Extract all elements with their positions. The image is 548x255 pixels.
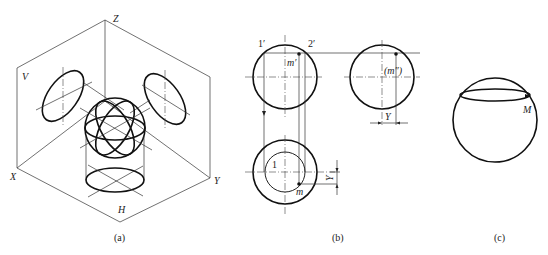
figure-b-caption: (b) <box>332 232 344 244</box>
top-view <box>245 135 340 215</box>
front-top-projectors <box>262 53 305 184</box>
figure-a-caption: (a) <box>114 232 125 244</box>
label-m: m <box>296 186 303 197</box>
z-axis-label: Z <box>113 13 119 24</box>
label-y-top: Y <box>324 174 335 181</box>
v-plane-projection <box>34 64 124 129</box>
h-plane-projection <box>86 165 144 197</box>
label-m-prime: m′ <box>287 57 297 68</box>
figure-c-caption: (c) <box>494 232 505 244</box>
label-M: M <box>522 104 532 115</box>
label-1-prime: 1′ <box>258 38 265 49</box>
label-m-double-prime: (m″) <box>384 65 403 77</box>
label-y-side: Y <box>385 111 392 122</box>
x-axis-label: X <box>9 171 17 182</box>
y-axis-label: Y <box>214 175 221 186</box>
h-plane-label: H <box>117 204 126 215</box>
figure-b-orthographic-views: 1′ 2′ m′ (m″) Y 1 m Y (b) <box>245 35 420 244</box>
point-m-double-prime <box>394 52 398 56</box>
figure-a-isometric-view: Z V X Y H (a) <box>9 13 221 244</box>
v-plane-label: V <box>22 71 30 82</box>
isometric-sphere <box>80 95 152 161</box>
sphere-projection-diagram: Z V X Y H (a) <box>0 0 548 255</box>
label-1: 1 <box>272 159 277 170</box>
label-2-prime: 2′ <box>308 38 315 49</box>
figure-c-sphere-latitude: M (c) <box>453 78 537 244</box>
